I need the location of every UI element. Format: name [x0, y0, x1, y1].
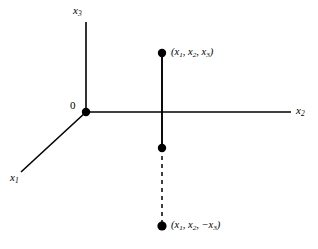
axis-label-x2-subscript: 2: [301, 109, 305, 118]
point-lower-label: (x1, x2, −x3): [171, 220, 220, 232]
point-upper-dot: [158, 49, 166, 57]
origin-dot: [82, 108, 90, 116]
axis-label-x1-subscript: 1: [15, 176, 19, 185]
axis-label-x3-subscript: 3: [78, 9, 82, 18]
axis-label-x2: x2: [296, 105, 305, 118]
point-upper-label: (x1, x2, x3): [171, 47, 213, 59]
point-middle-dot: [158, 144, 166, 152]
point-lower-dot: [157, 221, 166, 230]
axes-drawing: [0, 0, 318, 249]
axis-label-x3: x3: [73, 5, 82, 18]
axis-label-x1: x1: [10, 172, 19, 185]
axis-line-x1: [21, 112, 86, 172]
origin-label: 0: [70, 100, 76, 111]
figure-canvas: x3 x2 x1 0 (x1, x2, x3) (x1, x2, −x3): [0, 0, 318, 249]
